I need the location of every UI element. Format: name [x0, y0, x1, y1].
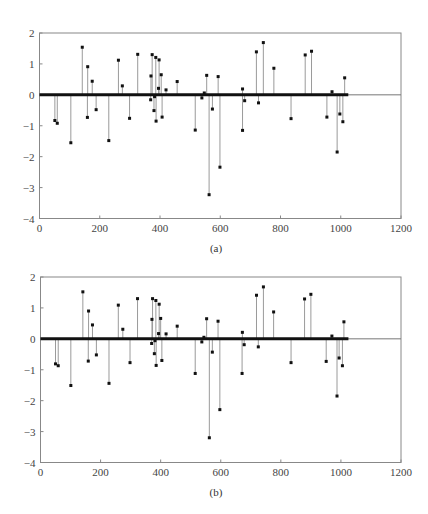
x-tick-label: 400 — [152, 222, 169, 234]
x-tick-label: 200 — [92, 466, 109, 478]
stem-plot-a: 210−1−2−3−4020040060080010001200 — [0, 0, 428, 257]
x-tick-label: 800 — [272, 222, 289, 234]
stem-marker — [121, 328, 124, 331]
x-tick-label: 0 — [38, 466, 44, 478]
stem-marker — [241, 87, 244, 90]
stem-marker — [81, 290, 84, 293]
stem-marker — [257, 101, 260, 104]
stem-marker — [336, 395, 339, 398]
stem-marker — [272, 310, 275, 313]
stem-marker — [160, 359, 163, 362]
stem-marker — [241, 372, 244, 375]
y-tick-label: −3 — [23, 182, 35, 194]
stem-marker — [336, 151, 339, 154]
stem-marker — [241, 331, 244, 334]
stem-marker — [107, 139, 110, 142]
stem-marker — [136, 297, 139, 300]
stem-marker — [208, 193, 211, 196]
stem-marker — [338, 357, 341, 360]
stem-marker — [95, 108, 98, 111]
stem-marker — [343, 76, 346, 79]
stem-marker — [341, 120, 344, 123]
stem-marker — [304, 53, 307, 56]
stem-marker — [56, 122, 59, 125]
stem-marker — [154, 56, 157, 59]
stem-marker — [217, 75, 220, 78]
stem-marker — [153, 352, 156, 355]
y-tick-label: −2 — [24, 395, 36, 407]
stem-marker — [121, 84, 124, 87]
stem-marker — [218, 408, 221, 411]
stem-marker — [257, 345, 260, 348]
stem-marker — [338, 113, 341, 116]
stem-plot-b: 210−1−2−3−4020040060080010001200 — [0, 244, 428, 514]
plot-area: 210−1−2−3−4020040060080010001200 — [24, 271, 413, 478]
stem-marker — [202, 336, 205, 339]
y-tick-label: −2 — [23, 151, 35, 163]
y-tick-label: 0 — [30, 333, 36, 345]
y-tick-label: −4 — [24, 457, 36, 469]
stem-marker — [87, 360, 90, 363]
x-tick-label: 600 — [213, 466, 230, 478]
stem-marker — [153, 95, 156, 98]
stem-marker — [241, 129, 244, 132]
stem-marker — [255, 50, 258, 53]
stem-marker — [87, 310, 90, 313]
stem-marker — [205, 317, 208, 320]
stem-marker — [86, 116, 89, 119]
stem-marker — [57, 364, 60, 367]
stem-marker — [54, 362, 57, 365]
stem-marker — [86, 65, 89, 68]
caption-b: (b) — [0, 486, 428, 498]
y-tick-label: 2 — [29, 27, 35, 39]
stem-marker — [165, 88, 168, 91]
stem-marker — [157, 332, 160, 335]
stem-marker — [205, 74, 208, 77]
stem-marker — [194, 129, 197, 132]
stem-marker — [290, 361, 293, 364]
stem-marker — [243, 343, 246, 346]
stem-marker — [218, 166, 221, 169]
stem-marker — [128, 117, 131, 120]
stem-marker — [91, 323, 94, 326]
stem-marker — [325, 116, 328, 119]
stem-marker — [53, 119, 56, 122]
stem-marker — [203, 91, 206, 94]
y-tick-label: 2 — [30, 271, 36, 283]
stem-marker — [151, 53, 154, 56]
stem-marker — [81, 46, 84, 49]
stem-marker — [158, 58, 161, 61]
stem-marker — [165, 332, 168, 335]
stem-marker — [309, 293, 312, 296]
stem-marker — [161, 116, 164, 119]
stem-marker — [262, 285, 265, 288]
stem-marker — [176, 80, 179, 83]
stem-marker — [152, 109, 155, 112]
x-tick-label: 0 — [37, 222, 43, 234]
stem-marker — [129, 361, 132, 364]
x-tick-label: 1200 — [390, 466, 413, 478]
stem-marker — [149, 74, 152, 77]
stem-marker — [176, 325, 179, 328]
stem-marker — [117, 59, 120, 62]
y-tick-label: 1 — [30, 302, 36, 314]
stem-marker — [160, 73, 163, 76]
x-tick-label: 1000 — [330, 222, 353, 234]
stem-marker — [200, 96, 203, 99]
stem-marker — [159, 317, 162, 320]
figure-b: 210−1−2−3−4020040060080010001200 (b) — [0, 244, 428, 514]
stem-marker — [303, 297, 306, 300]
stem-marker — [194, 372, 197, 375]
stem-marker — [155, 120, 158, 123]
stem-marker — [91, 80, 94, 83]
stem-marker — [107, 382, 110, 385]
stem-marker — [117, 304, 120, 307]
stem-marker — [157, 87, 160, 90]
stem-marker — [136, 53, 139, 56]
x-tick-label: 1200 — [390, 222, 413, 234]
y-tick-label: −1 — [23, 120, 35, 132]
stem-marker — [149, 98, 152, 101]
stem-marker — [150, 342, 153, 345]
stem-marker — [69, 384, 72, 387]
x-tick-label: 800 — [273, 466, 290, 478]
